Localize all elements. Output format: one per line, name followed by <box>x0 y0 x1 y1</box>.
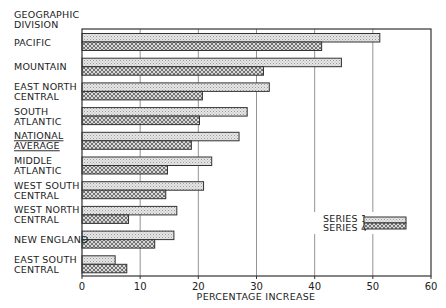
category-label: CENTRAL <box>14 190 59 201</box>
category-label: NEW ENGLAND <box>14 234 89 245</box>
bar-series-1 <box>82 108 247 117</box>
bar-series-4 <box>82 264 127 273</box>
category-label: CENTRAL <box>14 91 59 102</box>
legend-label-series-4: SERIES 4 <box>323 222 367 233</box>
category-label: CENTRAL <box>14 214 59 225</box>
x-tick-label: 60 <box>425 281 438 292</box>
bar-series-4 <box>82 91 202 100</box>
category-label: MOUNTAIN <box>14 61 67 72</box>
bar-series-4 <box>82 166 168 175</box>
legend-swatch-series-4 <box>364 223 406 229</box>
x-tick-label: 50 <box>366 281 379 292</box>
bar-series-4 <box>82 116 199 125</box>
x-tick-label: 0 <box>79 281 85 292</box>
category-label: PACIFIC <box>14 37 51 48</box>
category-label: ATLANTIC <box>14 116 62 127</box>
legend-swatch-series-1 <box>364 217 406 223</box>
category-labels: PACIFICMOUNTAINEAST NORTHCENTRALSOUTHATL… <box>14 37 89 275</box>
category-label: CENTRAL <box>14 264 59 275</box>
bar-series-4 <box>82 67 263 76</box>
bar-series-1 <box>82 256 115 264</box>
bar-series-1 <box>82 58 341 66</box>
x-tick-label: 10 <box>134 281 147 292</box>
bar-chart: GEOGRAPHIC DIVISION PACIFICMOUNTAINEAST … <box>0 0 446 308</box>
bar-series-4 <box>82 42 322 51</box>
legend: SERIES 1 SERIES 4 <box>312 212 418 234</box>
category-label: AVERAGE <box>14 140 60 151</box>
bar-series-1 <box>82 34 380 43</box>
bar-series-4 <box>82 190 166 199</box>
y-axis-header: GEOGRAPHIC DIVISION <box>14 9 79 30</box>
bars <box>82 34 380 273</box>
bar-series-4 <box>82 141 191 150</box>
bar-series-4 <box>82 215 129 224</box>
bar-series-1 <box>82 206 177 215</box>
bar-series-4 <box>82 240 155 249</box>
bar-series-1 <box>82 182 204 191</box>
header-line2: DIVISION <box>14 19 58 30</box>
bar-series-1 <box>82 83 269 92</box>
x-axis-label: PERCENTAGE INCREASE <box>197 291 316 302</box>
category-label: ATLANTIC <box>14 165 62 176</box>
bar-series-1 <box>82 231 174 240</box>
x-axis-ticks: 0102030405060 <box>79 276 438 292</box>
bar-series-1 <box>82 157 212 166</box>
bar-series-1 <box>82 132 239 141</box>
